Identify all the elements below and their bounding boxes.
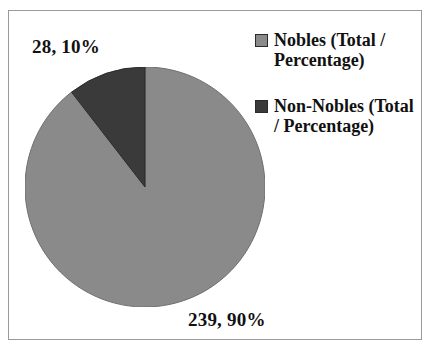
data-label-nobles: 239, 90% bbox=[188, 309, 266, 331]
legend-label-non-nobles: Non-Nobles (Total / Percentage) bbox=[274, 96, 420, 136]
data-label-non-nobles: 28, 10% bbox=[32, 36, 100, 58]
pie-svg bbox=[25, 67, 265, 307]
legend-item-nobles[interactable]: Nobles (Total / Percentage) bbox=[255, 30, 420, 70]
legend-label-nobles: Nobles (Total / Percentage) bbox=[274, 30, 420, 70]
legend-swatch-nobles-icon bbox=[255, 34, 268, 47]
legend-swatch-non-nobles-icon bbox=[255, 100, 268, 113]
pie-chart-figure: 28, 10% 239, 90% Nobles (Total / Percent… bbox=[0, 0, 432, 358]
pie-plot-area bbox=[25, 67, 265, 307]
legend-item-non-nobles[interactable]: Non-Nobles (Total / Percentage) bbox=[255, 96, 420, 136]
legend: Nobles (Total / Percentage) Non-Nobles (… bbox=[255, 30, 420, 162]
